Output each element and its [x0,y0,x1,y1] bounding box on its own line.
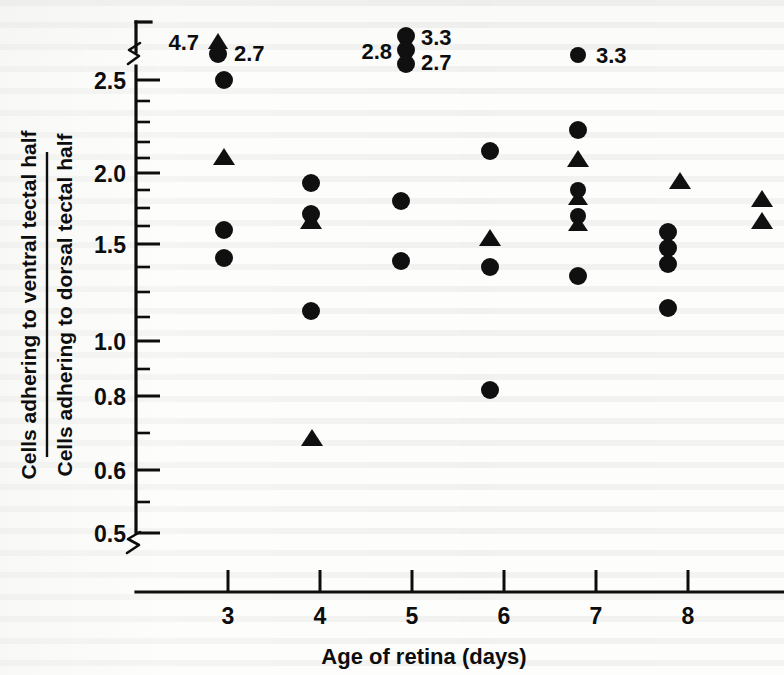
y-tick-label-0.8: 0.8 [94,384,126,410]
annotation-day7-right: 3.3 [596,43,627,68]
y-axis-group: 2.5 2.0 1.5 1.0 0.8 0.6 0.5 [94,22,160,553]
data-group-day-8 [659,172,691,317]
data-point-triangle [669,172,691,189]
data-point-circle [481,142,499,160]
x-tick-label-3: 3 [222,603,235,629]
x-tick-label-8: 8 [682,603,695,629]
annotation-day5-left: 2.8 [361,39,392,64]
y-tick-label-0.5: 0.5 [94,521,126,547]
y-tick-label-0.6: 0.6 [94,458,126,484]
y-tick-label-2.5: 2.5 [94,68,126,94]
x-axis-group: 3 4 5 6 7 8 Age of retina (days) [136,570,784,669]
data-group-day-5: 2.8 3.3 2.7 [361,25,451,270]
y-axis-break-bottom-icon [127,532,140,553]
annotation-day3-right: 2.7 [234,41,265,66]
data-group-day-6 [479,142,501,399]
annotation-day5-upper-right: 3.3 [421,25,452,50]
data-point-triangle [751,212,773,229]
data-point-circle [569,267,587,285]
data-point-triangle [751,190,773,207]
y-tick-label-1.5: 1.5 [94,232,126,258]
annotation-day5-lower-right: 2.7 [421,50,452,75]
data-point-circle [215,71,233,89]
data-point-circle [392,192,410,210]
y-axis-title-denominator: Cells adhering to dorsal tectal half [53,132,76,476]
data-point-circle-offscale [570,47,586,63]
x-tick-label-6: 6 [498,603,511,629]
data-point-triangle [479,229,501,246]
data-point-circle [481,258,499,276]
y-axis-title-numerator: Cells adhering to ventral tectal half [17,130,40,480]
data-point-circle [481,381,499,399]
x-tick-label-5: 5 [406,603,419,629]
data-point-triangle [213,148,235,165]
data-point-circle [659,299,677,317]
y-axis-title-group: Cells adhering to ventral tectal half Ce… [17,130,76,480]
chart-canvas: 2.5 2.0 1.5 1.0 0.8 0.6 0.5 Cells adheri… [0,0,784,675]
y-axis-break-top-icon [128,43,140,64]
data-point-circle [302,302,320,320]
data-group-day-4 [300,174,323,446]
data-point-circle-offscale [397,55,415,73]
data-group-right-edge [751,190,773,229]
y-tick-label-1.0: 1.0 [94,329,126,355]
data-point-circle [215,221,233,239]
data-point-circle [215,249,233,267]
data-point-circle [302,174,320,192]
x-axis-title: Age of retina (days) [321,644,526,669]
data-point-circle-offscale [209,45,227,63]
data-group-day-3: 4.7 2.7 [168,30,264,267]
x-tick-label-4: 4 [314,603,327,629]
x-tick-label-7: 7 [590,603,603,629]
data-group-day-7: 3.3 [567,43,627,285]
data-point-triangle [567,150,589,167]
data-point-circle [659,255,677,273]
data-point-circle [659,239,677,257]
scatter-plot-figure: 2.5 2.0 1.5 1.0 0.8 0.6 0.5 Cells adheri… [0,0,784,675]
annotation-day3-left: 4.7 [168,30,199,55]
data-point-circle [659,223,677,241]
data-point-circle [569,121,587,139]
y-tick-label-2.0: 2.0 [94,161,126,187]
data-point-circle [392,252,410,270]
data-point-triangle [301,429,323,446]
